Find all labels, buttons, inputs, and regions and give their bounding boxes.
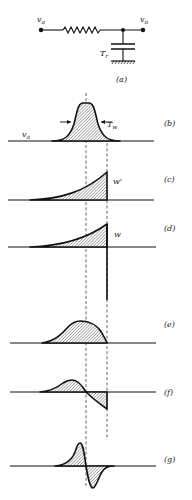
input-voltage-label: va [37, 15, 46, 25]
waveform-diagram: va vo Tr (a) Tw va (b) w' (c) w (d) (e) [0, 0, 192, 500]
panel-d-integral-impulse: w (d) [8, 224, 175, 300]
output-voltage-label: vo [140, 15, 149, 25]
ground-icon [111, 61, 135, 64]
input-signal-label: va [22, 130, 31, 140]
signal-label-w: w [114, 230, 121, 239]
panel-c-integral: w' (c) [8, 172, 175, 200]
panel-f-output: (f) [10, 380, 173, 409]
panel-label-c: (c) [164, 175, 175, 184]
panel-label-b: (b) [164, 119, 175, 128]
rc-circuit: va vo Tr (a) [37, 15, 149, 84]
panel-b-input-pulse: Tw va (b) [8, 103, 175, 141]
pulse-width-label: Tw [107, 120, 118, 130]
resistor-icon [63, 27, 100, 33]
panel-e-output: (e) [10, 320, 175, 343]
panel-label-f: (f) [164, 388, 173, 397]
panel-label-e: (e) [164, 320, 175, 329]
output-terminal [141, 28, 145, 32]
signal-label-w-prime: w' [113, 177, 122, 186]
panel-label-d: (d) [164, 224, 175, 233]
panel-label-a: (a) [116, 75, 127, 84]
panel-label-g: (g) [164, 455, 175, 464]
panel-g-output: (g) [10, 443, 175, 488]
capacitor-label: Tr [100, 49, 109, 59]
